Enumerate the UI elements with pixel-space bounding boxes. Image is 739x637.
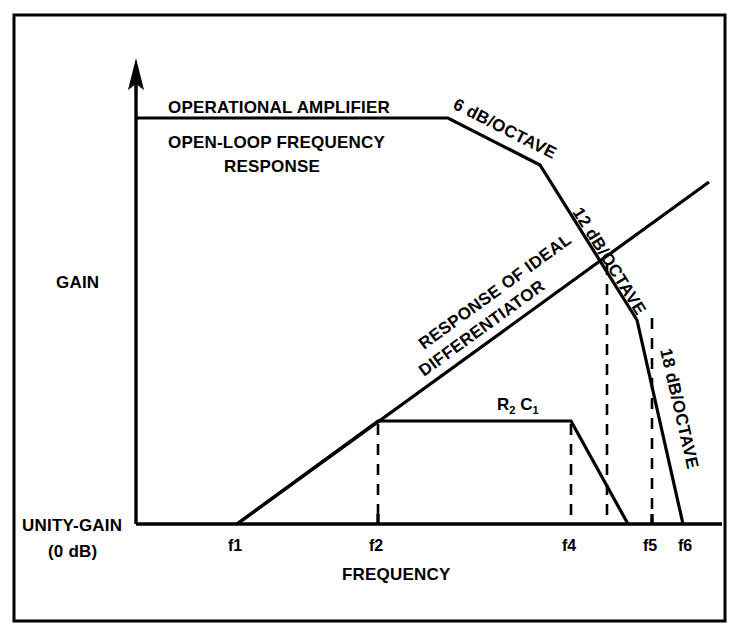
figure-container: OPERATIONAL AMPLIFIER OPEN-LOOP FREQUENC… [0, 0, 739, 637]
ideal-differentiator-label-line-1: RESPONSE OF IDEAL [415, 230, 575, 353]
rc-label-c: C [520, 395, 532, 414]
slope-label-18db: 18 dB/OCTAVE [656, 347, 702, 471]
title-line-1: OPERATIONAL AMPLIFIER [168, 98, 390, 117]
open-loop-response-curve [136, 118, 683, 524]
slope-label-12db: 12 dB/OCTAVE [569, 204, 650, 318]
tick-label-f1: f1 [228, 537, 242, 554]
tick-label-f5: f5 [643, 537, 657, 554]
rc-label-r: R [497, 395, 509, 414]
tick-label-f4: f4 [562, 537, 576, 554]
title-line-2: OPEN-LOOP FREQUENCY [168, 133, 385, 152]
unity-gain-label-line-1: UNITY-GAIN [22, 516, 122, 535]
tick-label-f2: f2 [369, 537, 383, 554]
rc-differentiator-curve [237, 421, 628, 524]
unity-gain-label-line-2: (0 dB) [48, 542, 97, 561]
tick-label-f6: f6 [678, 537, 692, 554]
title-line-3: RESPONSE [224, 157, 320, 176]
y-axis-label: GAIN [56, 273, 99, 292]
x-axis-label: FREQUENCY [342, 565, 451, 584]
rc-label-sub-1: 1 [532, 404, 538, 416]
frequency-response-diagram: OPERATIONAL AMPLIFIER OPEN-LOOP FREQUENC… [0, 0, 739, 637]
rc-label: R2 C1 [497, 395, 539, 416]
